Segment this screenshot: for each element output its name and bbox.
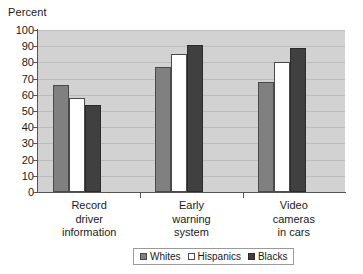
y-axis-tick-label: 70 bbox=[8, 73, 34, 84]
y-axis-tick-label: 60 bbox=[8, 89, 34, 100]
y-axis-tick-mark bbox=[33, 30, 37, 31]
bar-group bbox=[243, 30, 345, 192]
bar-group bbox=[38, 30, 140, 192]
legend-item[interactable]: Blacks bbox=[248, 252, 287, 262]
y-axis-tick-mark bbox=[33, 111, 37, 112]
x-axis-line bbox=[37, 192, 346, 193]
legend-swatch-icon bbox=[248, 253, 255, 260]
bar bbox=[171, 54, 187, 192]
y-axis-title: Percent bbox=[8, 6, 47, 18]
y-axis-tick-mark bbox=[33, 95, 37, 96]
y-axis-tick-label: 100 bbox=[8, 25, 34, 36]
legend-item[interactable]: Whites bbox=[140, 252, 181, 262]
y-axis-tick-mark bbox=[33, 46, 37, 47]
y-axis-tick-mark bbox=[33, 79, 37, 80]
legend-swatch-icon bbox=[188, 253, 195, 260]
y-axis-tick-mark bbox=[33, 192, 37, 193]
bar bbox=[53, 85, 69, 192]
x-axis-category-label: Record driver information bbox=[38, 199, 140, 240]
x-axis-tick-mark bbox=[140, 193, 141, 198]
bar bbox=[187, 45, 203, 192]
y-axis-tick-label: 40 bbox=[8, 122, 34, 133]
legend-label: Whites bbox=[150, 252, 181, 262]
legend-label: Hispanics bbox=[198, 252, 241, 262]
y-axis-tick-label: 90 bbox=[8, 41, 34, 52]
y-axis-tick-label: 30 bbox=[8, 138, 34, 149]
y-axis-tick-labels: 1009080706050403020100 bbox=[4, 30, 34, 192]
legend-swatch-icon bbox=[140, 253, 147, 260]
bar bbox=[85, 105, 101, 192]
legend-label: Blacks bbox=[258, 252, 287, 262]
y-axis-tick-mark bbox=[33, 143, 37, 144]
y-axis-tick-label: 50 bbox=[8, 106, 34, 117]
y-axis-tick-label: 0 bbox=[8, 187, 34, 198]
legend-item[interactable]: Hispanics bbox=[188, 252, 241, 262]
x-axis-tick-mark bbox=[243, 193, 244, 198]
bar bbox=[258, 82, 274, 192]
chart-legend: WhitesHispanicsBlacks bbox=[133, 248, 294, 265]
bar bbox=[155, 67, 171, 192]
bar-chart: Percent 1009080706050403020100 Record dr… bbox=[0, 0, 363, 274]
x-axis-category-label: Early warning system bbox=[140, 199, 242, 240]
bar bbox=[274, 62, 290, 192]
bar bbox=[290, 48, 306, 192]
y-axis-tick-mark bbox=[33, 127, 37, 128]
y-axis-tick-label: 10 bbox=[8, 170, 34, 181]
y-axis-tick-label: 20 bbox=[8, 154, 34, 165]
y-axis-tick-mark bbox=[33, 160, 37, 161]
bar bbox=[69, 98, 85, 192]
y-axis-tick-mark bbox=[33, 176, 37, 177]
bar-groups bbox=[38, 30, 345, 192]
x-axis-category-label: Video cameras in cars bbox=[243, 199, 345, 240]
bar-group bbox=[140, 30, 242, 192]
y-axis-tick-label: 80 bbox=[8, 57, 34, 68]
y-axis-tick-mark bbox=[33, 62, 37, 63]
